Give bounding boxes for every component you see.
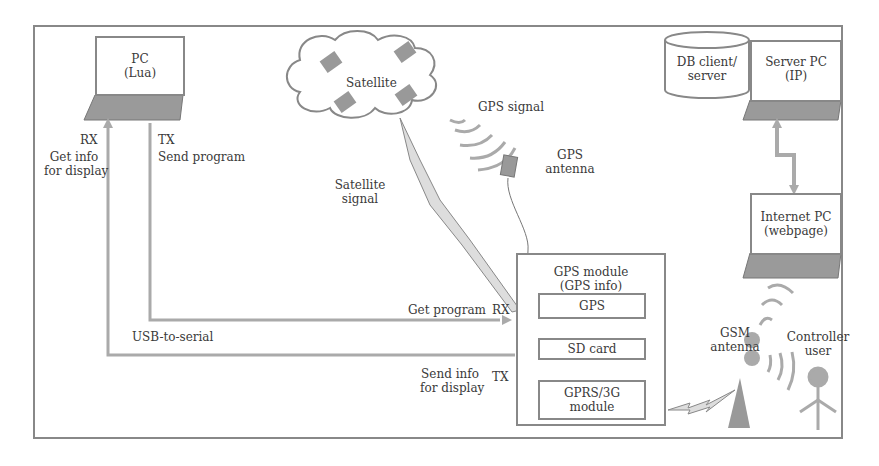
gps-antenna-label: GPSantenna <box>545 148 595 176</box>
pc-label: PC(Lua) <box>95 52 185 80</box>
send-program-label: Send program <box>158 150 245 164</box>
internet-laptop-base <box>743 253 841 278</box>
gps-box: GPS <box>538 293 646 319</box>
tx-pc-label: TX <box>158 133 175 147</box>
satellite-signal-label: Satellitesignal <box>330 178 390 206</box>
gps-signal-label: GPS signal <box>478 100 544 114</box>
gprs-signal <box>668 390 735 414</box>
cloud-icon <box>287 31 436 118</box>
gsm-tower-icon <box>728 378 750 428</box>
rx-pc-label: RX <box>80 133 98 147</box>
controller-user-icon <box>800 368 836 430</box>
sd-card-box: SD card <box>538 338 646 360</box>
gps-antenna-icon <box>500 155 517 177</box>
db-label: DB client/server <box>665 55 749 83</box>
controller-user-label: Controlleruser <box>786 330 850 358</box>
gprs-module-box: GPRS/3Gmodule <box>538 380 646 420</box>
tx-module-label: TX <box>492 370 509 384</box>
rx-module-label: RX <box>492 303 510 317</box>
internet-pc-label: Internet PC(webpage) <box>750 210 842 238</box>
usb-to-serial-label: USB-to-serial <box>132 330 213 344</box>
get-info-label: Get infofor display <box>44 150 104 178</box>
get-program-label: Get program <box>408 303 486 317</box>
server-laptop-base <box>743 100 841 120</box>
server-pc-label: Server PC(IP) <box>750 55 842 83</box>
send-info-label: Send infofor display <box>420 367 480 395</box>
gps-module-label: GPS module(GPS info) <box>516 265 666 293</box>
pc-laptop-base <box>84 95 183 120</box>
gsm-antenna-label: GSMantenna <box>710 326 760 354</box>
satellite-label: Satellite <box>346 76 397 90</box>
